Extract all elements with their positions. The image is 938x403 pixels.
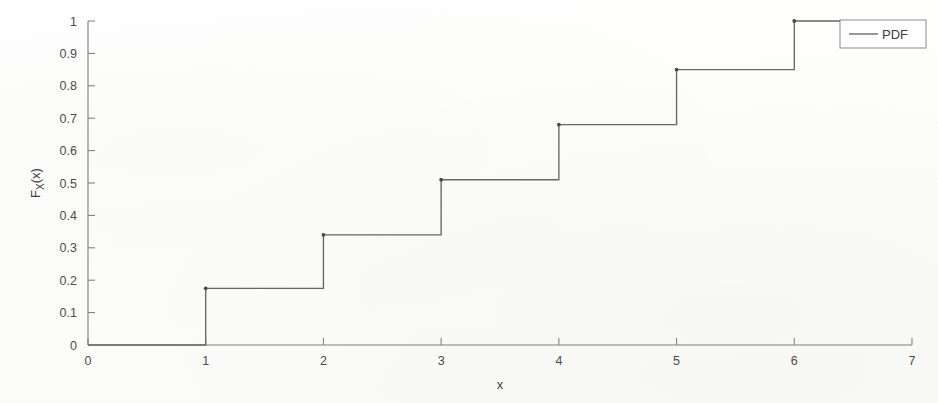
y-axis-ticks	[88, 21, 95, 313]
y-tick-label: 1	[70, 15, 77, 29]
y-tick-label: 0.5	[60, 177, 77, 191]
step-marker	[675, 68, 679, 72]
y-tick-label: 0.2	[60, 274, 77, 288]
x-tick-label: 2	[320, 354, 327, 368]
step-marker	[792, 19, 796, 23]
x-tick-label: 7	[909, 354, 916, 368]
step-marker	[439, 178, 443, 182]
y-axis-title-base: F	[28, 190, 43, 198]
y-tick-label: 0	[70, 339, 77, 353]
y-tick-label: 0.6	[60, 144, 77, 158]
y-axis-title: FX(x)	[28, 168, 46, 198]
x-tick-label: 4	[555, 354, 562, 368]
y-tick-label: 0.4	[60, 209, 77, 223]
y-tick-label: 0.8	[60, 79, 77, 93]
y-axis-tick-labels: 00.10.20.30.40.50.60.70.80.91	[60, 15, 77, 353]
y-axis-title-argument: (x)	[28, 168, 43, 183]
x-axis-tick-labels: 01234567	[85, 354, 916, 368]
x-tick-label: 0	[85, 354, 92, 368]
y-tick-label: 0.3	[60, 241, 77, 255]
x-tick-label: 5	[673, 354, 680, 368]
series-pdf	[88, 19, 912, 345]
step-curve	[88, 21, 912, 345]
x-tick-label: 1	[202, 354, 209, 368]
y-tick-label: 0.9	[60, 47, 77, 61]
x-axis-title: x	[497, 377, 504, 392]
y-axis-title-text: FX(x)	[28, 168, 46, 198]
step-marker	[204, 286, 208, 290]
x-tick-label: 3	[438, 354, 445, 368]
step-marker	[322, 233, 326, 237]
y-tick-label: 0.1	[60, 306, 77, 320]
legend[interactable]: PDF	[840, 20, 926, 48]
step-marker	[557, 123, 561, 127]
y-tick-label: 0.7	[60, 112, 77, 126]
legend-label-pdf[interactable]: PDF	[882, 27, 908, 42]
x-tick-label: 6	[791, 354, 798, 368]
cdf-step-plot: 00.10.20.30.40.50.60.70.80.91 01234567 x…	[0, 0, 938, 403]
figure-canvas: 00.10.20.30.40.50.60.70.80.91 01234567 x…	[0, 0, 938, 403]
step-corner-markers	[204, 19, 796, 290]
x-axis-ticks	[88, 338, 912, 345]
